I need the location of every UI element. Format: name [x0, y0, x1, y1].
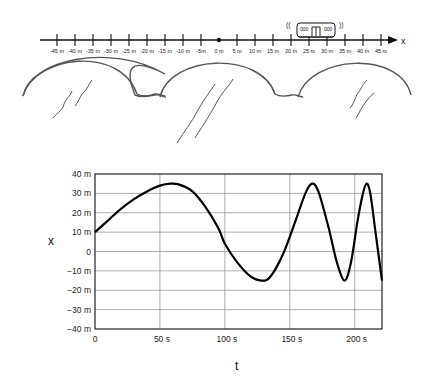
y-tick-label: 10 m [72, 227, 91, 237]
x-tick-label: 100 s [216, 334, 237, 344]
number-line-tick-label: -45 m [50, 48, 64, 54]
y-tick-label: 20 m [72, 208, 91, 218]
number-line-tick-label: -40 m [68, 48, 82, 54]
number-line-tick-label: -20 m [140, 48, 154, 54]
svg-text:000: 000 [324, 26, 333, 32]
y-tick-label: 0 [86, 247, 91, 257]
number-line-tick-label: -35 m [86, 48, 100, 54]
y-tick-label: −40 m [67, 324, 91, 334]
x-tick-label: 50 s [154, 334, 170, 344]
number-line-tick-label: 5 m [232, 48, 242, 54]
line-chart: 40 m30 m20 m10 m0−10 m−20 m−30 m−40 m 05… [48, 169, 382, 373]
number-line-tick-label: 15 m [267, 48, 280, 54]
y-tick-label: 40 m [72, 169, 91, 179]
x-tick-label: 0 [93, 334, 98, 344]
x-axis-title: t [235, 359, 239, 373]
y-tick-label: −10 m [67, 266, 91, 276]
number-line: -45 m-40 m-35 m-30 m-25 m-20 m-15 m-10 m… [40, 34, 406, 54]
number-line-tick-label: -15 m [158, 48, 172, 54]
number-line-tick-label: 40 m [357, 48, 370, 54]
number-line-tick-label: -25 m [122, 48, 136, 54]
number-line-tick-label: -30 m [104, 48, 118, 54]
number-line-tick-label: -5m [196, 48, 206, 54]
origin-dot [217, 38, 221, 42]
sound-marks-left: (( [286, 21, 291, 29]
number-line-tick-label: 25 m [303, 48, 316, 54]
number-line-tick-label: 45 m [375, 48, 388, 54]
figure: -45 m-40 m-35 m-30 m-25 m-20 m-15 m-10 m… [0, 0, 429, 378]
number-line-tick-label: 35 m [339, 48, 352, 54]
number-line-tick-label: 20 m [285, 48, 298, 54]
x-tick-label: 150 s [281, 334, 302, 344]
hills-illustration [23, 57, 411, 143]
x-tick-labels: 050 s100 s150 s200 s [93, 334, 367, 344]
y-tick-label: −20 m [67, 285, 91, 295]
y-axis-title: x [48, 234, 54, 248]
number-line-tick-label: 30 m [321, 48, 334, 54]
arrow-icon [388, 36, 398, 44]
number-line-axis-label: x [401, 36, 406, 46]
y-tick-labels: 40 m30 m20 m10 m0−10 m−20 m−30 m−40 m [67, 169, 91, 334]
number-line-tick-label: -10 m [176, 48, 190, 54]
train-icon: 000 000 (( )) [286, 21, 344, 37]
number-line-tick-label: 0 m [214, 48, 224, 54]
number-line-tick-label: 10 m [249, 48, 262, 54]
y-tick-label: 30 m [72, 188, 91, 198]
y-tick-label: −30 m [67, 305, 91, 315]
sound-marks-right: )) [339, 21, 344, 29]
svg-text:000: 000 [300, 26, 309, 32]
x-tick-label: 200 s [346, 334, 367, 344]
